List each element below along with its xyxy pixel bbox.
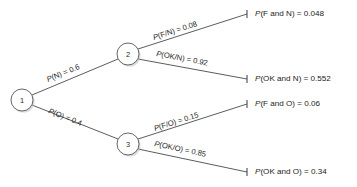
branch-f-given-n-label: P(F/N) = 0.08 (152, 19, 198, 42)
branch-f-given-n-line (138, 14, 247, 49)
branch-o-label: P(O) = 0.4 (47, 106, 83, 127)
outcome-f-and-o: P(F and O) = 0.06 (255, 100, 320, 108)
node-3-label: 3 (126, 140, 130, 149)
outcome-f-and-n: P(F and N) = 0.048 (255, 10, 324, 18)
outcome-ok-and-o: P(OK and O) = 0.34 (255, 168, 327, 176)
branch-ok-given-o-label: P(OK/O) = 0.85 (154, 139, 207, 159)
node-2-label: 2 (126, 50, 130, 59)
branch-ok-given-n-label: P(OK/N) = 0.92 (156, 49, 209, 67)
nodes-group: 123 (11, 43, 141, 157)
outcome-ok-and-n: P(OK and N) = 0.552 (255, 75, 331, 83)
branch-f-given-o-line (138, 104, 247, 139)
branch-n-label: P(N) = 0.6 (45, 62, 81, 84)
tree-canvas: 123 P(N) = 0.6P(O) = 0.4P(F/N) = 0.08P(O… (0, 0, 357, 187)
node-1-label: 1 (20, 96, 24, 105)
probability-tree-diagram: 123 P(N) = 0.6P(O) = 0.4P(F/N) = 0.08P(O… (0, 0, 357, 187)
